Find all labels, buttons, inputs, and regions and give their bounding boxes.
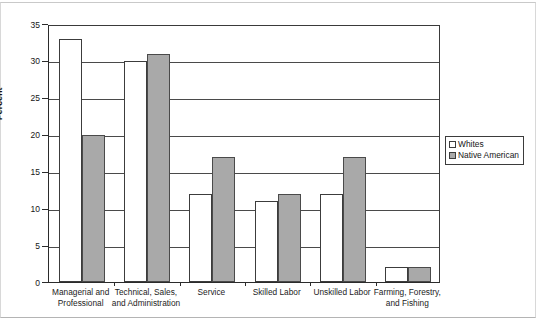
- bar[interactable]: [255, 201, 278, 282]
- y-tick-label: 15: [0, 168, 40, 177]
- y-tick-mark: [42, 135, 48, 136]
- bar-chart: Percent Managerial andProfessionalTechni…: [0, 0, 537, 328]
- bar[interactable]: [343, 157, 366, 282]
- bar-group: [245, 26, 310, 282]
- bar-group: [180, 26, 245, 282]
- y-tick-label: 0: [0, 279, 40, 288]
- category-label-line: and Fishing: [367, 298, 448, 309]
- y-tick-mark: [42, 209, 48, 210]
- y-tick-label: 20: [0, 131, 40, 140]
- legend-label: Native American: [458, 151, 519, 159]
- y-axis-title: Percent: [0, 87, 4, 120]
- bar[interactable]: [278, 194, 301, 282]
- x-tick-mark: [180, 282, 181, 286]
- y-tick-mark: [42, 172, 48, 173]
- x-tick-mark: [376, 282, 377, 286]
- y-tick-mark: [42, 98, 48, 99]
- bar-group: [114, 26, 179, 282]
- bar-group: [49, 26, 114, 282]
- bar-group: [310, 26, 375, 282]
- y-tick-mark: [42, 246, 48, 247]
- legend-swatch-icon: [449, 152, 456, 159]
- y-tick-mark: [42, 61, 48, 62]
- bar[interactable]: [124, 61, 147, 282]
- y-tick-mark: [42, 24, 48, 25]
- legend-item[interactable]: Native American: [449, 150, 519, 161]
- x-tick-mark: [114, 282, 115, 286]
- chart-legend: WhitesNative American: [445, 136, 524, 165]
- category-label-line: Farming, Forestry,: [367, 287, 448, 298]
- bar[interactable]: [385, 267, 408, 282]
- x-tick-mark: [245, 282, 246, 286]
- bar[interactable]: [212, 157, 235, 282]
- bar-group: [376, 26, 441, 282]
- x-tick-mark: [310, 282, 311, 286]
- bar[interactable]: [59, 39, 82, 282]
- bar[interactable]: [82, 135, 105, 282]
- y-tick-label: 30: [0, 57, 40, 66]
- legend-label: Whites: [458, 140, 484, 148]
- y-tick-label: 35: [0, 21, 40, 30]
- legend-item[interactable]: Whites: [449, 139, 519, 150]
- legend-swatch-icon: [449, 141, 456, 148]
- y-tick-label: 5: [0, 242, 40, 251]
- bar[interactable]: [147, 54, 170, 283]
- y-tick-label: 25: [0, 94, 40, 103]
- bar[interactable]: [320, 194, 343, 282]
- bar[interactable]: [408, 267, 431, 282]
- plot-area: [48, 25, 440, 283]
- bar[interactable]: [189, 194, 212, 282]
- category-label-line: and Administration: [105, 298, 186, 309]
- y-tick-mark: [42, 282, 48, 283]
- y-tick-label: 10: [0, 205, 40, 214]
- x-axis-category-label: Farming, Forestry,and Fishing: [367, 287, 448, 308]
